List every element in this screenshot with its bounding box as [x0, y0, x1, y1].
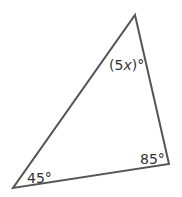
angle-label-bottom-left: 45° [27, 170, 52, 186]
angle-label-bottom-right: 85° [140, 151, 165, 167]
triangle-diagram: (5x)° 85° 45° [0, 0, 182, 197]
angle-label-top: (5x)° [109, 57, 144, 73]
